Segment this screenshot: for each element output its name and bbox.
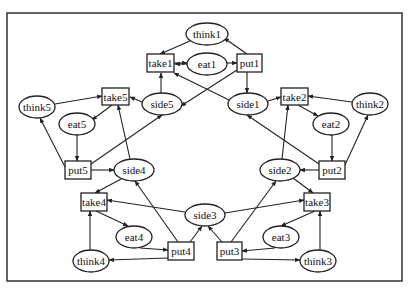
place-label: side5 [150,98,174,110]
transition-label: put2 [322,164,342,176]
place-label: side3 [193,209,217,221]
transition-take2: take2 [281,88,308,105]
place-think1: think1 [186,23,228,45]
place-think3: think3 [300,250,336,272]
place-side3: side3 [185,204,225,226]
place-label: eat4 [125,231,144,243]
place-label: think5 [23,101,52,113]
transition-put1: put1 [237,54,262,72]
place-label: eat1 [198,58,216,70]
transition-put2: put2 [319,161,345,179]
place-label: side4 [122,164,146,176]
transition-put4: put4 [168,242,194,260]
transition-put3: put3 [217,242,242,260]
place-think5: think5 [19,96,55,118]
place-label: think4 [77,255,106,267]
place-eat3: eat3 [263,226,299,248]
place-label: think3 [304,255,333,267]
transition-take4: take4 [81,193,107,211]
place-label: think1 [193,28,221,40]
place-eat5: eat5 [59,113,95,135]
place-eat2: eat2 [313,113,349,135]
transition-take5: take5 [102,88,129,105]
place-label: eat5 [68,118,87,130]
transition-label: take2 [283,91,307,103]
transition-label: take5 [104,91,128,103]
place-side2: side2 [260,159,300,181]
place-eat4: eat4 [116,226,152,248]
transition-take3: take3 [304,193,330,211]
transition-label: take3 [305,196,329,208]
place-think2: think2 [352,93,388,115]
place-think4: think4 [73,250,109,272]
transition-take1: take1 [147,54,174,72]
transition-label: put5 [68,164,88,176]
place-label: eat3 [272,231,291,243]
transition-label: take1 [149,57,173,69]
place-eat1: eat1 [187,53,227,75]
place-label: think2 [356,98,384,110]
place-label: side2 [268,164,291,176]
transition-label: put3 [220,245,240,257]
place-label: eat2 [322,118,340,130]
transition-label: put1 [240,57,260,69]
place-side5: side5 [142,93,182,115]
transition-put5: put5 [65,161,91,179]
petri-net-diagram: think1eat1side5side1think5eat5think2eat2… [0,0,408,288]
place-side1: side1 [228,93,268,115]
transition-label: take4 [82,196,106,208]
transition-label: put4 [171,245,191,257]
place-side4: side4 [114,159,154,181]
place-label: side1 [236,98,259,110]
